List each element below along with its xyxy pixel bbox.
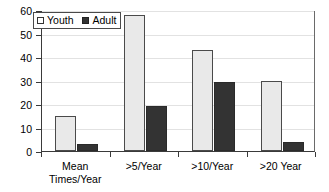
y-tick-label: 50	[0, 30, 32, 40]
y-tick	[36, 82, 41, 83]
legend-label-youth: Youth	[47, 15, 73, 26]
y-tick-label: 30	[0, 77, 32, 87]
y-tick-label: 40	[0, 53, 32, 63]
x-tick	[41, 152, 42, 157]
y-tick	[36, 35, 41, 36]
plot-area	[41, 11, 315, 152]
bar-chart: 0102030405060 Mean Times/Year>5/Year>10/…	[0, 0, 329, 192]
category-label-2: >10/Year	[178, 160, 247, 173]
y-tick-label: 60	[0, 6, 32, 16]
gridline	[42, 35, 314, 36]
legend-label-adult: Adult	[92, 15, 116, 26]
x-tick	[247, 152, 248, 157]
category-label-3: >20 Year	[247, 160, 316, 173]
bar-youth-2	[192, 50, 213, 151]
bar-youth-0	[55, 116, 76, 151]
y-tick	[36, 58, 41, 59]
category-label-1: >5/Year	[110, 160, 179, 173]
y-tick	[36, 105, 41, 106]
legend-entry-adult: Adult	[82, 15, 116, 26]
legend-entry-youth: Youth	[37, 15, 73, 26]
bar-youth-3	[261, 81, 282, 152]
x-tick	[178, 152, 179, 157]
bar-youth-1	[124, 15, 145, 151]
gridline	[42, 58, 314, 59]
legend: Youth Adult	[33, 12, 121, 29]
y-tick-label: 0	[0, 147, 32, 157]
bar-adult-0	[77, 144, 98, 151]
y-tick-label: 10	[0, 124, 32, 134]
x-tick	[315, 152, 316, 157]
bar-adult-1	[146, 106, 167, 151]
bar-adult-3	[283, 142, 304, 151]
filled-square-marker-icon	[82, 17, 89, 24]
open-square-marker-icon	[37, 17, 44, 24]
y-tick	[36, 129, 41, 130]
x-tick	[110, 152, 111, 157]
y-tick-label: 20	[0, 100, 32, 110]
category-label-0: Mean Times/Year	[41, 160, 110, 186]
bar-adult-2	[214, 82, 235, 151]
